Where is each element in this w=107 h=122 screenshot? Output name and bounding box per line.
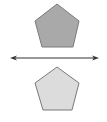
bottom-pentagon [35, 67, 79, 110]
diagram-canvas [0, 0, 107, 122]
reflection-diagram [0, 0, 107, 122]
top-pentagon [35, 4, 79, 47]
line-of-reflection [10, 56, 99, 61]
